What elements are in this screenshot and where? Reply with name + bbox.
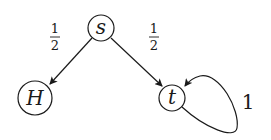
fraction-numerator: 1 [51, 21, 59, 36]
edge-t-self-loop [182, 76, 237, 133]
node-s: s [88, 15, 114, 41]
node-t-label: t [168, 85, 177, 109]
fraction-denominator: 2 [51, 38, 59, 53]
markov-diagram: s H t 1 2 1 2 1 [0, 0, 271, 140]
node-h-label: H [25, 86, 44, 110]
edge-label-s-t: 1 2 [149, 21, 159, 53]
node-t: t [159, 85, 185, 111]
edge-label-t-t: 1 [242, 90, 255, 114]
node-s-label: s [96, 15, 106, 39]
fraction-denominator: 2 [150, 38, 158, 53]
node-h: H [18, 81, 52, 115]
edge-label-s-h: 1 2 [50, 21, 60, 53]
fraction-numerator: 1 [150, 21, 158, 36]
